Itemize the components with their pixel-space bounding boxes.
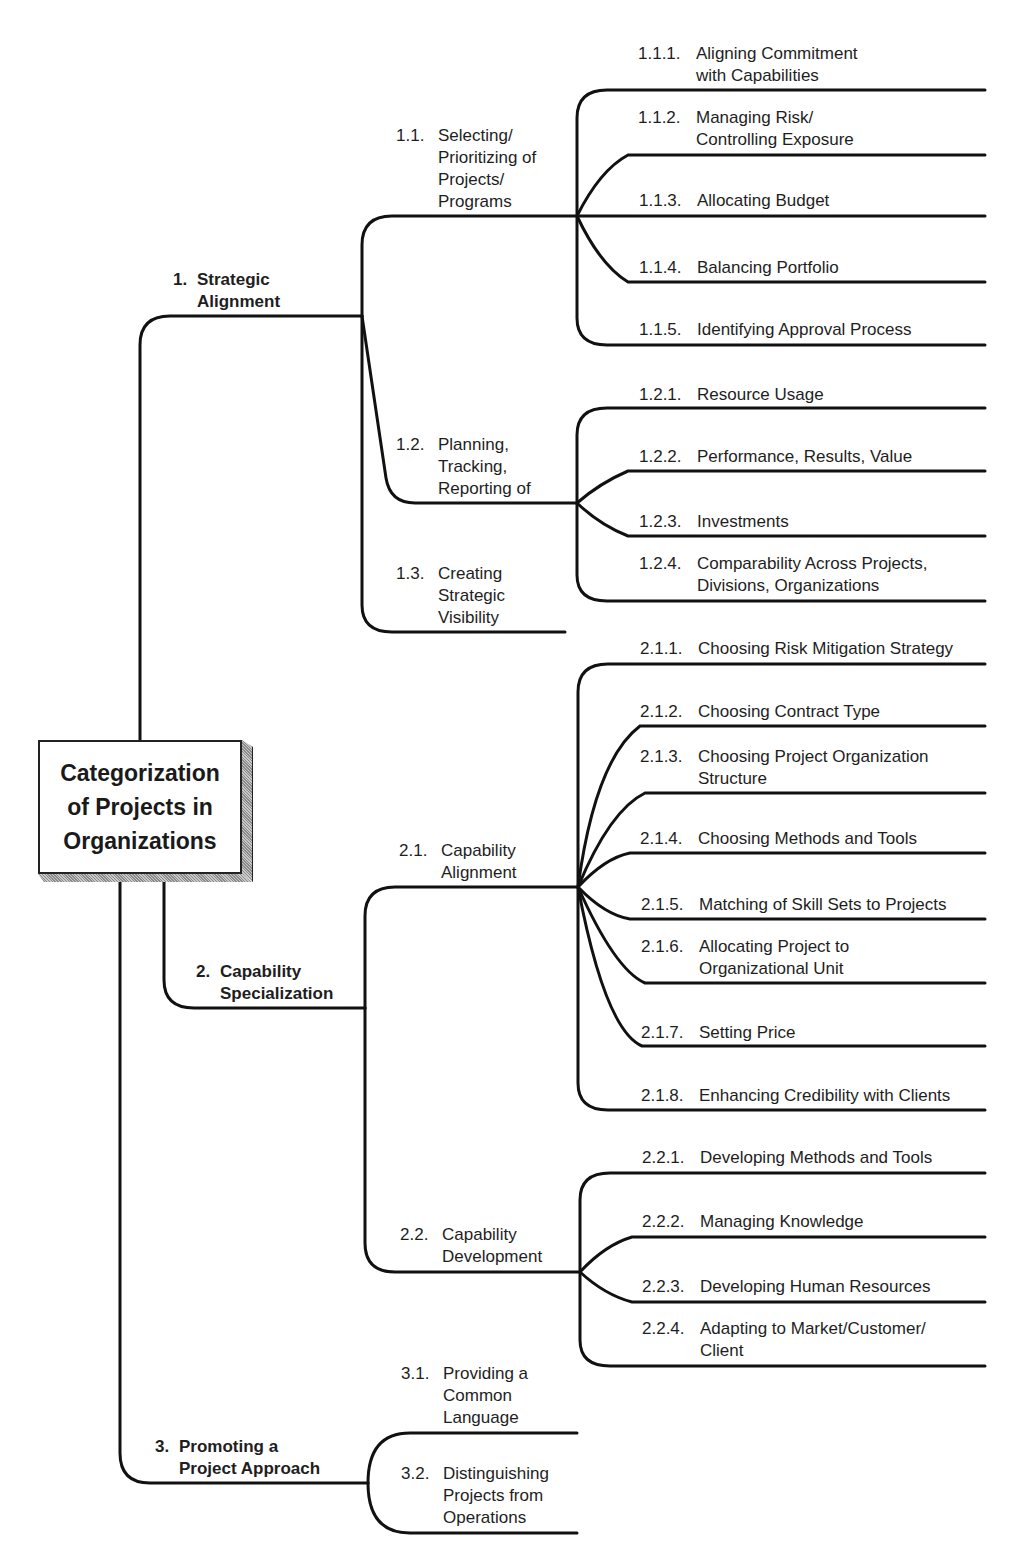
- node-label: Resource Usage: [697, 384, 824, 406]
- node-label: Enhancing Credibility with Clients: [699, 1085, 950, 1107]
- node-3: 3.Promoting a Project Approach: [155, 1436, 320, 1480]
- node-2-2: 2.2.Capability Development: [400, 1224, 542, 1268]
- node-label: Providing a Common Language: [443, 1363, 528, 1429]
- node-2-1-1: 2.1.1.Choosing Risk Mitigation Strategy: [640, 638, 953, 660]
- node-number: 1.1.: [396, 125, 438, 147]
- node-label: Allocating Project to Organizational Uni…: [699, 936, 849, 980]
- node-number: 2.1.6.: [641, 936, 699, 958]
- node-2-2-2: 2.2.2.Managing Knowledge: [642, 1211, 864, 1233]
- connector-1: [140, 316, 362, 740]
- node-1: 1.Strategic Alignment: [173, 269, 280, 313]
- node-number: 2.1.4.: [640, 828, 698, 850]
- node-number: 2.1.7.: [641, 1022, 699, 1044]
- node-2-1-6: 2.1.6.Allocating Project to Organization…: [641, 936, 849, 980]
- node-1-2-3: 1.2.3.Investments: [639, 511, 789, 533]
- node-1-3: 1.3.Creating Strategic Visibility: [396, 563, 505, 629]
- node-label: Allocating Budget: [697, 190, 829, 212]
- node-number: 2.2.: [400, 1224, 442, 1246]
- node-number: 1.: [173, 269, 197, 291]
- node-label: Adapting to Market/Customer/ Client: [700, 1318, 926, 1362]
- node-2-1-7: 2.1.7.Setting Price: [641, 1022, 795, 1044]
- node-number: 2.1.3.: [640, 746, 698, 768]
- node-3-2: 3.2.Distinguishing Projects from Operati…: [401, 1463, 549, 1529]
- node-2-1-5: 2.1.5.Matching of Skill Sets to Projects: [641, 894, 947, 916]
- node-number: 2.2.2.: [642, 1211, 700, 1233]
- connector-2-1: [365, 887, 578, 1008]
- node-number: 1.3.: [396, 563, 438, 585]
- node-2: 2.Capability Specialization: [196, 961, 333, 1005]
- node-number: 2.1.8.: [641, 1085, 699, 1107]
- root-node: Categorization of Projects in Organizati…: [38, 740, 242, 874]
- node-label: Managing Risk/ Controlling Exposure: [696, 107, 854, 151]
- node-label: Performance, Results, Value: [697, 446, 912, 468]
- node-3-1: 3.1.Providing a Common Language: [401, 1363, 528, 1429]
- node-1-2-1: 1.2.1.Resource Usage: [639, 384, 824, 406]
- node-number: 1.1.2.: [638, 107, 696, 129]
- node-label: Choosing Risk Mitigation Strategy: [698, 638, 953, 660]
- node-1-1-4: 1.1.4.Balancing Portfolio: [639, 257, 839, 279]
- node-number: 1.2.4.: [639, 553, 697, 575]
- node-1-2: 1.2.Planning, Tracking, Reporting of: [396, 434, 531, 500]
- node-number: 1.2.: [396, 434, 438, 456]
- node-1-1-5: 1.1.5.Identifying Approval Process: [639, 319, 912, 341]
- node-number: 2.: [196, 961, 220, 983]
- node-number: 2.2.3.: [642, 1276, 700, 1298]
- node-1-1-2: 1.1.2.Managing Risk/ Controlling Exposur…: [638, 107, 854, 151]
- node-label: Capability Development: [442, 1224, 542, 1268]
- node-number: 1.2.2.: [639, 446, 697, 468]
- node-number: 2.2.1.: [642, 1147, 700, 1169]
- node-label: Capability Alignment: [441, 840, 517, 884]
- node-number: 2.1.1.: [640, 638, 698, 660]
- root-box-bottom-shadow: [38, 874, 252, 882]
- node-1-2-4: 1.2.4.Comparability Across Projects, Div…: [639, 553, 928, 597]
- connector-1-1: [362, 216, 577, 316]
- node-number: 1.2.1.: [639, 384, 697, 406]
- node-2-2-4: 2.2.4.Adapting to Market/Customer/ Clien…: [642, 1318, 926, 1362]
- node-label: Promoting a Project Approach: [179, 1436, 320, 1480]
- node-number: 2.2.4.: [642, 1318, 700, 1340]
- node-label: Creating Strategic Visibility: [438, 563, 505, 629]
- node-label: Choosing Project Organization Structure: [698, 746, 929, 790]
- node-label: Managing Knowledge: [700, 1211, 864, 1233]
- node-label: Distinguishing Projects from Operations: [443, 1463, 549, 1529]
- node-2-1-3: 2.1.3.Choosing Project Organization Stru…: [640, 746, 929, 790]
- node-label: Matching of Skill Sets to Projects: [699, 894, 947, 916]
- node-number: 1.1.5.: [639, 319, 697, 341]
- node-label: Choosing Contract Type: [698, 701, 880, 723]
- node-number: 3.2.: [401, 1463, 443, 1485]
- node-label: Balancing Portfolio: [697, 257, 839, 279]
- node-2-1-2: 2.1.2.Choosing Contract Type: [640, 701, 880, 723]
- node-label: Strategic Alignment: [197, 269, 280, 313]
- node-label: Developing Methods and Tools: [700, 1147, 932, 1169]
- node-2-2-1: 2.2.1.Developing Methods and Tools: [642, 1147, 932, 1169]
- node-label: Investments: [697, 511, 789, 533]
- node-label: Selecting/ Prioritizing of Projects/ Pro…: [438, 125, 536, 213]
- node-label: Planning, Tracking, Reporting of: [438, 434, 531, 500]
- node-number: 3.: [155, 1436, 179, 1458]
- node-number: 1.1.3.: [639, 190, 697, 212]
- node-label: Aligning Commitment with Capabilities: [696, 43, 858, 87]
- node-label: Setting Price: [699, 1022, 795, 1044]
- node-1-1-3: 1.1.3.Allocating Budget: [639, 190, 829, 212]
- node-label: Capability Specialization: [220, 961, 333, 1005]
- node-number: 2.1.: [399, 840, 441, 862]
- root-box-side-shadow: [242, 740, 253, 882]
- node-1-1: 1.1.Selecting/ Prioritizing of Projects/…: [396, 125, 536, 213]
- node-2-1-4: 2.1.4.Choosing Methods and Tools: [640, 828, 917, 850]
- node-2-1-8: 2.1.8.Enhancing Credibility with Clients: [641, 1085, 950, 1107]
- node-1-1-1: 1.1.1.Aligning Commitment with Capabilit…: [638, 43, 858, 87]
- node-number: 1.2.3.: [639, 511, 697, 533]
- node-label: Choosing Methods and Tools: [698, 828, 917, 850]
- node-2-1: 2.1.Capability Alignment: [399, 840, 517, 884]
- node-2-2-3: 2.2.3.Developing Human Resources: [642, 1276, 931, 1298]
- node-1-2-2: 1.2.2.Performance, Results, Value: [639, 446, 912, 468]
- node-label: Developing Human Resources: [700, 1276, 931, 1298]
- node-number: 2.1.2.: [640, 701, 698, 723]
- node-number: 3.1.: [401, 1363, 443, 1385]
- node-label: Identifying Approval Process: [697, 319, 912, 341]
- node-number: 1.1.1.: [638, 43, 696, 65]
- node-number: 2.1.5.: [641, 894, 699, 916]
- node-number: 1.1.4.: [639, 257, 697, 279]
- node-label: Comparability Across Projects, Divisions…: [697, 553, 928, 597]
